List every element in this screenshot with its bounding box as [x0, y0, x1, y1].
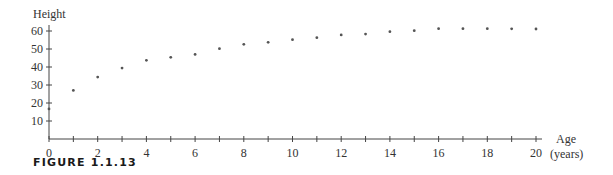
- data-point: [389, 30, 392, 33]
- data-point: [486, 27, 489, 30]
- data-point: [218, 47, 221, 50]
- data-point: [267, 41, 270, 44]
- data-point: [340, 34, 343, 37]
- data-point: [510, 27, 513, 30]
- y-tick-label: 20: [31, 96, 43, 110]
- data-point: [315, 36, 318, 39]
- data-points: [48, 27, 538, 110]
- data-point: [437, 27, 440, 30]
- data-point: [413, 29, 416, 32]
- data-point: [48, 108, 51, 111]
- data-point: [291, 38, 294, 41]
- x-tick-label: 20: [530, 146, 542, 160]
- y-tick-label: 50: [31, 42, 43, 56]
- axes: [46, 25, 542, 142]
- scatter-chart: 02468101214161820102030405060HeightAge(y…: [0, 0, 613, 175]
- data-point: [535, 28, 538, 31]
- x-tick-label: 4: [143, 146, 149, 160]
- x-tick-label: 12: [335, 146, 347, 160]
- y-tick-label: 10: [31, 114, 43, 128]
- y-tick-label: 30: [31, 78, 43, 92]
- x-axis-unit-label: (years): [550, 147, 583, 161]
- data-point: [72, 89, 75, 92]
- x-tick-label: 6: [192, 146, 198, 160]
- y-tick-label: 60: [31, 24, 43, 38]
- x-tick-label: 10: [287, 146, 299, 160]
- data-point: [96, 76, 99, 79]
- x-tick-label: 8: [241, 146, 247, 160]
- data-point: [194, 53, 197, 56]
- x-axis-label: Age: [556, 132, 576, 146]
- data-point: [145, 59, 148, 62]
- y-tick-label: 40: [31, 60, 43, 74]
- x-tick-label: 14: [384, 146, 396, 160]
- figure-caption: FIGURE 1.1.13: [33, 156, 137, 169]
- axis-labels: 02468101214161820102030405060HeightAge(y…: [31, 7, 583, 161]
- data-point: [169, 56, 172, 59]
- data-point: [462, 27, 465, 30]
- data-point: [364, 33, 367, 36]
- x-tick-label: 16: [433, 146, 445, 160]
- y-axis-label: Height: [33, 7, 66, 21]
- data-point: [121, 67, 124, 70]
- data-point: [242, 43, 245, 46]
- x-tick-label: 18: [481, 146, 493, 160]
